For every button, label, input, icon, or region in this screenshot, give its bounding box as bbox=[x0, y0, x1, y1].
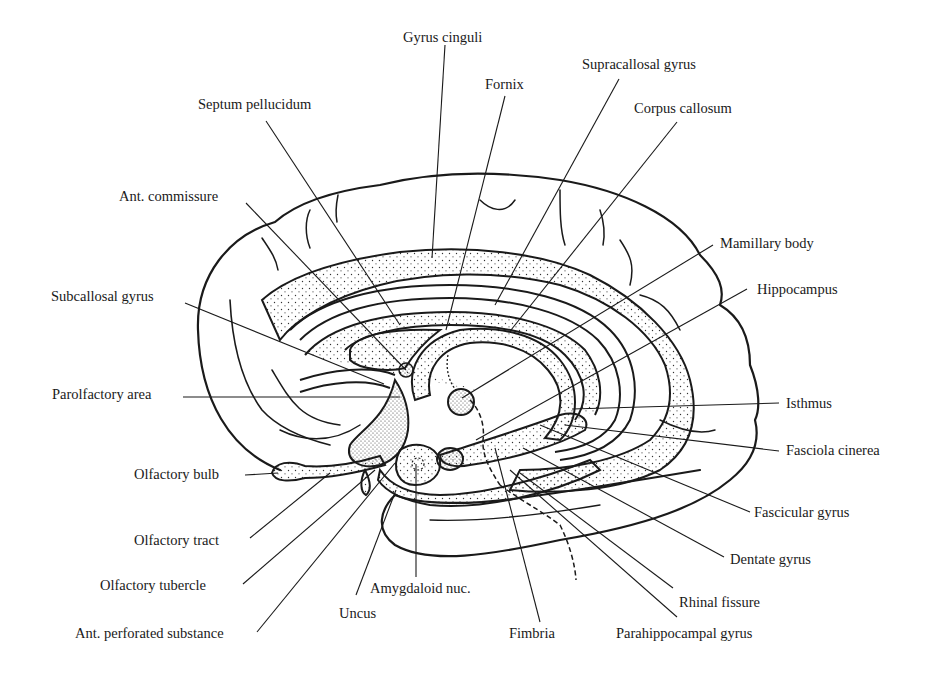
label-hippocampus: Hippocampus bbox=[757, 282, 838, 297]
label-olfactory-tubercle: Olfactory tubercle bbox=[100, 578, 206, 593]
label-corpus-callosum: Corpus callosum bbox=[634, 101, 732, 116]
brain-diagram: Gyrus cinguli Fornix Supracallosal gyrus… bbox=[0, 0, 949, 682]
label-mamillary-body: Mamillary body bbox=[720, 236, 814, 251]
label-fimbria: Fimbria bbox=[509, 626, 555, 641]
label-amygdaloid-nuc: Amygdaloid nuc. bbox=[370, 581, 471, 596]
label-supracallosal-gyrus: Supracallosal gyrus bbox=[582, 57, 696, 72]
label-parolfactory-area: Parolfactory area bbox=[52, 387, 151, 402]
label-fornix: Fornix bbox=[485, 77, 524, 92]
label-olfactory-bulb: Olfactory bulb bbox=[134, 467, 219, 482]
label-uncus: Uncus bbox=[339, 606, 376, 621]
label-subcallosal-gyrus: Subcallosal gyrus bbox=[51, 289, 154, 304]
label-fasciola-cinerea: Fasciola cinerea bbox=[786, 443, 880, 458]
label-isthmus: Isthmus bbox=[786, 396, 832, 411]
label-parahippocampal-gyrus: Parahippocampal gyrus bbox=[616, 626, 753, 641]
amygdala-uncus bbox=[396, 445, 440, 485]
label-ant-commissure: Ant. commissure bbox=[119, 189, 218, 204]
label-gyrus-cinguli: Gyrus cinguli bbox=[403, 30, 482, 45]
label-septum-pellucidum: Septum pellucidum bbox=[198, 97, 311, 112]
label-olfactory-tract: Olfactory tract bbox=[134, 533, 219, 548]
septal-region bbox=[300, 370, 408, 467]
label-dentate-gyrus: Dentate gyrus bbox=[730, 552, 811, 567]
label-fascicular-gyrus: Fascicular gyrus bbox=[754, 505, 849, 520]
label-rhinal-fissure: Rhinal fissure bbox=[679, 595, 760, 610]
label-ant-perforated-substance: Ant. perforated substance bbox=[75, 626, 224, 641]
